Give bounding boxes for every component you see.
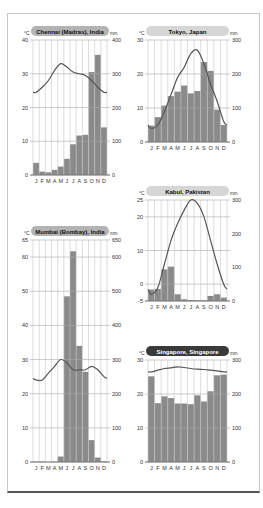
- month-label: A: [169, 145, 173, 151]
- month-label: D: [102, 178, 106, 184]
- month-label: M: [58, 178, 63, 184]
- chart-chennai: 0102030400100200300400JFMAMJJASOND°CmmCh…: [22, 26, 121, 184]
- right-unit-label: mm: [110, 31, 118, 36]
- left-tick-label: 0: [140, 281, 143, 287]
- month-label: D: [102, 465, 106, 471]
- precip-bar: [214, 294, 221, 301]
- right-tick-label: 100: [232, 264, 241, 270]
- chart-title: Kabul, Pakistan: [165, 189, 210, 195]
- precip-bar: [207, 391, 214, 462]
- right-tick-label: 0: [232, 139, 235, 145]
- month-label: J: [189, 304, 192, 310]
- month-label: S: [202, 145, 206, 151]
- month-label: J: [183, 304, 186, 310]
- precip-bar: [188, 93, 195, 142]
- month-label: N: [96, 465, 100, 471]
- month-label: J: [66, 465, 69, 471]
- precip-bar: [82, 135, 88, 175]
- right-tick-label: 400: [112, 322, 121, 328]
- right-tick-label: 200: [232, 71, 241, 77]
- chart-title: Mumbai (Bombay), India: [35, 229, 105, 235]
- month-label: S: [202, 304, 206, 310]
- month-label: M: [162, 304, 167, 310]
- chart-title: Tokyo, Japan: [169, 29, 207, 35]
- month-label: A: [53, 178, 57, 184]
- precip-bar: [95, 458, 101, 462]
- chart-singapore: 01020300100200300JFMAMJJASOND°CmmSingapo…: [137, 346, 241, 471]
- precip-bar: [33, 163, 39, 175]
- right-tick-label: 0: [232, 459, 235, 465]
- left-tick-label: 65: [22, 237, 28, 243]
- month-label: O: [208, 304, 213, 310]
- precip-bar: [76, 346, 82, 462]
- left-unit-label: °C: [139, 350, 145, 356]
- chart-mumbai: 0102030405060650100200300400500600650JFM…: [22, 226, 121, 471]
- right-tick-label: 0: [112, 459, 115, 465]
- month-label: N: [215, 304, 219, 310]
- left-tick-label: 40: [22, 37, 28, 43]
- month-label: F: [41, 178, 45, 184]
- left-unit-label: °C: [139, 190, 145, 196]
- left-unit-label: °C: [24, 230, 30, 236]
- right-tick-label: 0: [112, 172, 115, 178]
- right-tick-label: 200: [112, 105, 121, 111]
- precip-bar: [214, 375, 221, 462]
- month-label: J: [35, 465, 38, 471]
- precip-bar: [181, 404, 188, 462]
- month-label: J: [183, 145, 186, 151]
- month-label: A: [196, 145, 200, 151]
- precip-bar: [39, 172, 45, 175]
- precip-bar: [168, 267, 175, 301]
- month-label: A: [169, 304, 173, 310]
- month-label: A: [53, 465, 57, 471]
- chart-title: Chennai (Madras), India: [36, 29, 104, 35]
- left-tick-label: 0: [25, 459, 28, 465]
- right-tick-label: 600: [112, 254, 121, 260]
- month-label: J: [183, 465, 186, 471]
- month-label: M: [162, 465, 167, 471]
- left-tick-label: 40: [22, 322, 28, 328]
- month-label: O: [208, 145, 213, 151]
- left-tick-label: 10: [22, 138, 28, 144]
- month-label: S: [84, 465, 88, 471]
- right-tick-label: 500: [112, 288, 121, 294]
- right-unit-label: mm: [230, 191, 238, 196]
- left-tick-label: 0: [140, 139, 143, 145]
- left-tick-label: 30: [137, 357, 143, 363]
- month-label: M: [46, 465, 51, 471]
- month-label: M: [58, 465, 63, 471]
- climate-charts: 0102030400100200300400JFMAMJJASOND°CmmCh…: [0, 0, 263, 508]
- month-label: M: [175, 145, 180, 151]
- precip-bar: [95, 55, 101, 175]
- right-unit-label: mm: [230, 351, 238, 356]
- month-label: D: [222, 304, 226, 310]
- precip-bar: [188, 404, 195, 462]
- month-label: M: [162, 145, 167, 151]
- right-tick-label: 300: [232, 357, 241, 363]
- month-label: A: [169, 465, 173, 471]
- month-label: O: [89, 178, 94, 184]
- month-label: M: [175, 465, 180, 471]
- right-tick-label: 300: [232, 197, 241, 203]
- month-label: A: [196, 304, 200, 310]
- month-label: J: [72, 465, 75, 471]
- left-tick-label: 20: [22, 105, 28, 111]
- month-label: J: [150, 465, 153, 471]
- month-label: A: [196, 465, 200, 471]
- month-label: J: [189, 465, 192, 471]
- month-label: M: [175, 304, 180, 310]
- left-tick-label: 20: [22, 391, 28, 397]
- left-unit-label: °C: [139, 30, 145, 36]
- month-label: F: [41, 465, 45, 471]
- right-tick-label: 0: [232, 298, 235, 304]
- precip-bar: [207, 71, 214, 142]
- month-label: O: [208, 465, 213, 471]
- precip-bar: [181, 86, 188, 142]
- precip-bar: [174, 92, 181, 142]
- precip-bar: [161, 396, 168, 462]
- left-tick-label: 10: [22, 425, 28, 431]
- precip-bar: [220, 125, 227, 142]
- left-tick-label: 60: [22, 254, 28, 260]
- precip-bar: [174, 294, 181, 301]
- precip-bar: [201, 401, 208, 462]
